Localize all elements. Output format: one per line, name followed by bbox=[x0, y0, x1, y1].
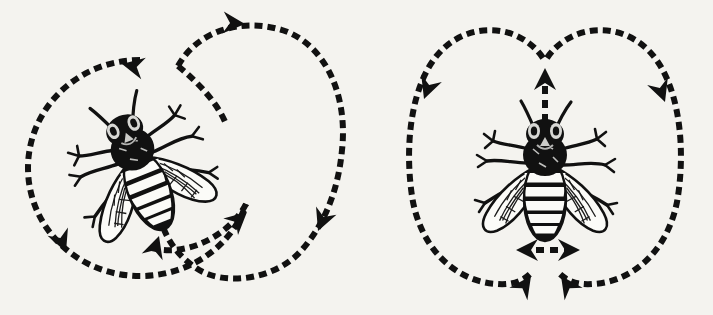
bee-dance-figure: Honeybee communication dances bbox=[0, 0, 713, 315]
paper-background bbox=[0, 0, 713, 315]
figure-canvas bbox=[0, 0, 713, 315]
